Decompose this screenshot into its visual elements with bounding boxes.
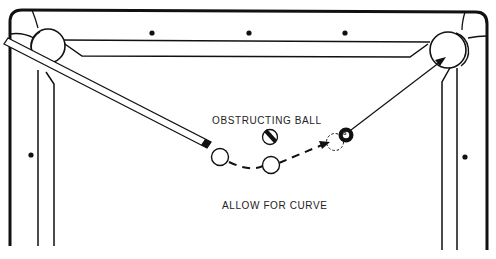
- cue-stick: [4, 38, 211, 148]
- diamond-top-3: [342, 30, 347, 35]
- allow-for-curve-label: ALLOW FOR CURVE: [222, 200, 328, 211]
- obstructing-ball: [263, 129, 278, 145]
- diamond-top-2: [246, 30, 251, 35]
- top-cushion-line: [62, 42, 428, 57]
- cue-ball: [212, 149, 229, 166]
- pool-table-diagram: [0, 0, 496, 259]
- cue-ball-midpath: [263, 157, 280, 174]
- left-cushion-line: [46, 72, 54, 246]
- top-rail-line: [60, 40, 430, 42]
- eight-ball-number: 8: [343, 130, 346, 136]
- diamond-top-1: [149, 30, 154, 35]
- diamond-right: [462, 154, 467, 159]
- right-cushion-line: [442, 66, 451, 250]
- diamond-left: [28, 152, 33, 157]
- table-outer-frame: [10, 10, 487, 250]
- top-left-corner-joint: [10, 10, 38, 38]
- top-right-pocket: [430, 32, 469, 68]
- shot-line: [351, 62, 440, 130]
- obstructing-ball-label: OBSTRUCTING BALL: [212, 115, 322, 126]
